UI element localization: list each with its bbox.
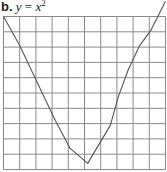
graph (0, 0, 167, 172)
grid (4, 17, 166, 170)
